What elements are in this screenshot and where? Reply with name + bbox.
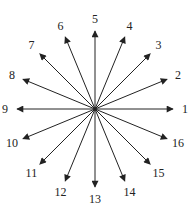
radial-arrow-diagram: 12345678910111213141516 <box>0 0 189 208</box>
arrow-label-16: 16 <box>172 136 184 150</box>
arrow-label-14: 14 <box>123 185 135 199</box>
arrow-3 <box>95 54 150 109</box>
arrow-label-13: 13 <box>89 192 101 206</box>
arrow-label-4: 4 <box>126 19 132 33</box>
arrow-11 <box>40 109 95 164</box>
arrow-label-15: 15 <box>153 166 165 180</box>
arrows-group <box>17 31 173 187</box>
arrow-label-2: 2 <box>175 68 181 82</box>
arrow-label-11: 11 <box>26 166 38 180</box>
arrow-15 <box>95 109 150 164</box>
arrow-7 <box>40 54 95 109</box>
arrow-label-12: 12 <box>55 185 67 199</box>
arrow-label-8: 8 <box>9 68 15 82</box>
arrow-label-10: 10 <box>6 136 18 150</box>
arrow-label-7: 7 <box>28 38 34 52</box>
arrow-label-1: 1 <box>182 102 188 116</box>
arrow-label-5: 5 <box>92 12 98 26</box>
arrow-label-9: 9 <box>2 102 8 116</box>
arrow-label-3: 3 <box>156 38 162 52</box>
arrow-label-6: 6 <box>58 19 64 33</box>
